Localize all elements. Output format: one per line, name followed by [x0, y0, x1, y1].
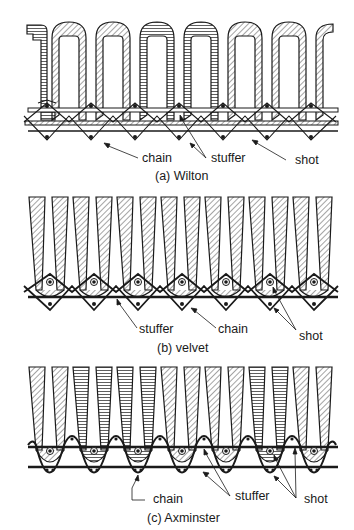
axminster-label-shot: shot [304, 492, 328, 506]
axminster-caption: (c) Axminster [147, 511, 220, 525]
wilton-panel [24, 22, 338, 160]
velvet-caption: (b) velvet [157, 341, 208, 355]
velvet-panel [24, 197, 338, 330]
carpet-weave-diagram [0, 0, 354, 530]
wilton-caption: (a) Wilton [155, 169, 208, 183]
axminster-panel [28, 367, 338, 500]
wilton-label-stuffer: stuffer [211, 151, 246, 165]
velvet-label-stuffer: stuffer [139, 322, 174, 336]
velvet-label-shot: shot [299, 329, 323, 343]
wilton-label-chain: chain [142, 151, 172, 165]
wilton-label-shot: shot [295, 153, 319, 167]
velvet-label-chain: chain [218, 322, 248, 336]
axminster-label-stuffer: stuffer [235, 489, 270, 503]
axminster-label-chain: chain [153, 492, 183, 506]
